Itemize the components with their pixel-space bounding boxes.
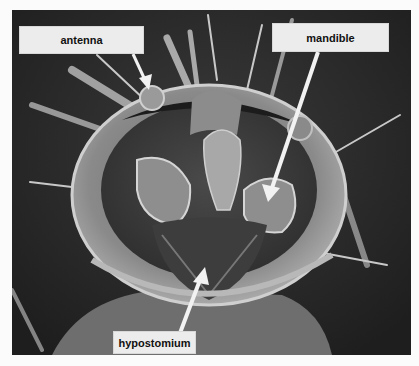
label-hypostomium-text: hypostomium [118,337,190,349]
label-antenna-text: antenna [60,34,102,46]
label-antenna: antenna [20,27,143,53]
sem-micrograph [12,10,411,355]
label-mandible-text: mandible [306,32,354,44]
larva-head-illustration [12,10,411,355]
label-hypostomium: hypostomium [114,332,195,353]
label-mandible: mandible [273,24,388,51]
